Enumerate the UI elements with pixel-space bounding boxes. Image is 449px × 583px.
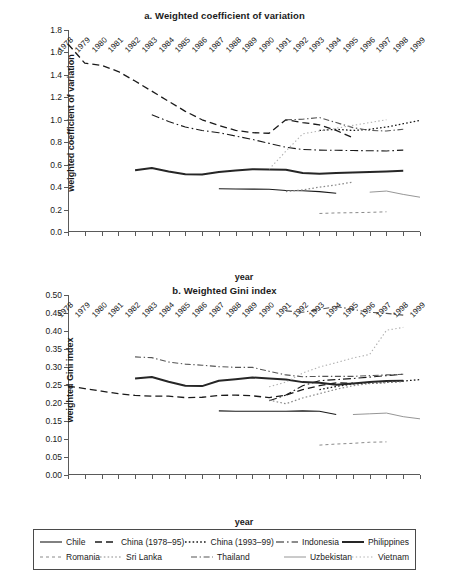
x-tick xyxy=(169,232,170,236)
series-line-romania xyxy=(319,442,386,445)
legend-item-label: Indonesia xyxy=(302,537,339,547)
legend-item-philippines[interactable]: Philippines xyxy=(342,537,409,547)
x-tick xyxy=(252,475,253,479)
legend-line-swatch-icon xyxy=(284,552,306,562)
series-line-uzbekistan xyxy=(370,191,420,197)
series-line-uzbekistan xyxy=(353,413,420,419)
legend-item-label: Uzbekistan xyxy=(310,552,352,562)
legend-item-chile[interactable]: Chile xyxy=(40,537,95,547)
legend-line-swatch-icon xyxy=(191,552,213,562)
x-tick xyxy=(219,232,220,236)
x-tick xyxy=(202,232,203,236)
x-tick xyxy=(286,475,287,479)
x-tick xyxy=(118,232,119,236)
series-line-indonesia xyxy=(152,115,403,151)
y-tick-label: 0.4 xyxy=(50,182,62,192)
x-tick xyxy=(336,475,337,479)
x-tick xyxy=(269,232,270,236)
legend-item-china-1993-99[interactable]: China (1993–99) xyxy=(185,537,276,547)
legend-item-china-1978-95[interactable]: China (1978–95) xyxy=(95,537,185,547)
x-tick xyxy=(152,475,153,479)
x-tick xyxy=(202,475,203,479)
y-tick-label: 1.0 xyxy=(50,115,62,125)
x-tick xyxy=(252,232,253,236)
x-tick xyxy=(85,475,86,479)
y-tick-label: 0.50 xyxy=(45,290,62,300)
chart-b-series-layer xyxy=(68,295,420,475)
series-line-philippines xyxy=(135,377,403,386)
y-tick-label: 0.05 xyxy=(45,452,62,462)
legend-line-swatch-icon xyxy=(40,552,62,562)
y-tick xyxy=(64,349,68,350)
legend-item-thailand[interactable]: Thailand xyxy=(191,552,284,562)
figure-root: a. Weighted coefficient of variation wei… xyxy=(0,0,449,583)
x-tick xyxy=(319,232,320,236)
x-tick xyxy=(370,475,371,479)
x-tick xyxy=(336,232,337,236)
y-tick-label: 0.35 xyxy=(45,344,62,354)
x-tick xyxy=(420,475,421,479)
legend-item-vietnam[interactable]: Vietnam xyxy=(352,552,409,562)
y-tick-label: 1.8 xyxy=(50,25,62,35)
x-tick xyxy=(269,475,270,479)
legend-item-label: Thailand xyxy=(217,552,250,562)
y-tick-label: 1.2 xyxy=(50,92,62,102)
y-tick xyxy=(64,165,68,166)
y-tick-label: 0.25 xyxy=(45,380,62,390)
y-tick-label: 0.6 xyxy=(50,160,62,170)
x-tick xyxy=(403,475,404,479)
x-tick xyxy=(353,232,354,236)
figure-legend: ChileChina (1978–95)China (1993–99)Indon… xyxy=(33,529,416,570)
legend-item-indonesia[interactable]: Indonesia xyxy=(276,537,342,547)
y-tick xyxy=(64,142,68,143)
x-tick xyxy=(370,232,371,236)
x-tick xyxy=(152,232,153,236)
x-tick xyxy=(286,232,287,236)
legend-line-swatch-icon xyxy=(185,537,207,547)
legend-line-swatch-icon xyxy=(95,537,117,547)
y-tick-label: 0.00 xyxy=(45,470,62,480)
series-line-thailand xyxy=(286,118,403,131)
x-tick xyxy=(185,475,186,479)
x-tick xyxy=(135,232,136,236)
y-tick-label: 0.10 xyxy=(45,434,62,444)
legend-item-label: China (1993–99) xyxy=(211,537,274,547)
legend-line-swatch-icon xyxy=(342,537,364,547)
x-tick xyxy=(303,475,304,479)
y-tick xyxy=(64,385,68,386)
y-tick xyxy=(64,439,68,440)
legend-line-swatch-icon xyxy=(276,537,298,547)
y-tick-label: 0.15 xyxy=(45,416,62,426)
chart-panel-b: b. Weighted Gini index weighted Gini ind… xyxy=(0,275,449,525)
series-line-chile xyxy=(219,189,336,193)
x-tick xyxy=(102,232,103,236)
legend-item-uzbekistan[interactable]: Uzbekistan xyxy=(284,552,352,562)
x-tick xyxy=(185,232,186,236)
series-line-chile xyxy=(219,411,336,415)
y-tick xyxy=(64,52,68,53)
y-tick xyxy=(64,403,68,404)
y-tick-label: 0.0 xyxy=(50,227,62,237)
x-tick xyxy=(169,475,170,479)
y-tick xyxy=(64,120,68,121)
x-tick xyxy=(135,475,136,479)
x-tick xyxy=(386,475,387,479)
y-tick xyxy=(64,295,68,296)
x-tick xyxy=(102,475,103,479)
x-tick xyxy=(68,232,69,236)
chart-a-series-layer xyxy=(68,30,420,232)
series-line-vietnam xyxy=(269,327,403,386)
x-tick xyxy=(219,475,220,479)
legend-item-sri-lanka[interactable]: Sri Lanka xyxy=(100,552,191,562)
chart-b-x-axis-label: year xyxy=(68,517,420,527)
series-line-china-1978-95 xyxy=(68,44,353,138)
series-line-romania xyxy=(319,212,386,214)
legend-line-swatch-icon xyxy=(40,537,62,547)
y-tick xyxy=(64,75,68,76)
x-tick xyxy=(319,475,320,479)
y-tick xyxy=(64,210,68,211)
series-line-indonesia xyxy=(269,374,403,401)
chart-a-plot-area: weighted coefficient of variation year 0… xyxy=(68,30,420,232)
chart-panel-a: a. Weighted coefficient of variation wei… xyxy=(0,0,449,275)
legend-item-romania[interactable]: Romania xyxy=(40,552,100,562)
